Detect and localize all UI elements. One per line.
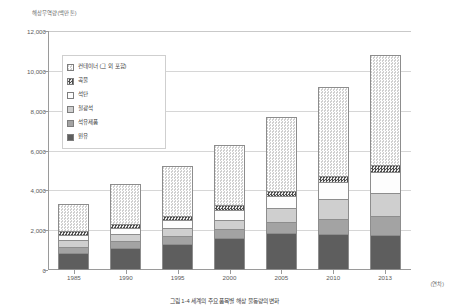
maritime-trade-stacked-bar-chart: 해상무역량(백만톤) 12,00010,0008,0006,0004,0002,… [0, 0, 449, 308]
y-axis-tick-label: 12,000 [2, 28, 46, 35]
bar-segment-crude [162, 244, 193, 270]
bar-segment-coal [266, 196, 297, 208]
legend-item-label: 원유 [78, 134, 88, 140]
bar-segment-iron [370, 193, 401, 217]
bar-segment-cont [318, 87, 349, 177]
bar-segment-crude [110, 248, 141, 270]
y-axis-title: 해상무역량(백만톤) [32, 9, 77, 17]
x-axis-tick-mark [74, 270, 75, 274]
x-axis-tick-mark [281, 270, 282, 274]
bar-segment-cont [110, 184, 141, 223]
bar-segment-coal [214, 210, 245, 220]
bar-segment-iron [110, 234, 141, 241]
legend-item-label: 곡물 [78, 78, 88, 84]
legend-swatch-icon [67, 134, 74, 141]
bar-segment-petro [370, 216, 401, 235]
legend-item-label: 컨테이너 (그 외 포함) [78, 64, 126, 70]
bar-segment-iron [266, 208, 297, 221]
legend-swatch-icon [67, 92, 74, 99]
bar-segment-crude [214, 238, 245, 270]
x-axis-tick-mark [333, 270, 334, 274]
legend-item-crude: 원유 [67, 130, 160, 144]
bar-segment-petro [214, 229, 245, 238]
figure-caption: 그림 1-4 세계의 주요 품목별 해상 물동량의 변화 [0, 296, 449, 305]
bar-column [214, 145, 245, 270]
legend-item-coal: 석탄 [67, 88, 160, 102]
legend-swatch-icon [67, 120, 74, 127]
legend-item-label: 석탄 [78, 92, 88, 98]
bar-column [58, 204, 89, 270]
legend-item-iron: 철광석 [67, 102, 160, 116]
y-axis-tick-label: 0 [2, 267, 46, 274]
bar-column [110, 184, 141, 270]
bar-segment-cont [58, 204, 89, 231]
bar-column [370, 55, 401, 270]
x-axis-tick-label: 2013 [355, 274, 415, 281]
y-axis-tick-label: 2,000 [2, 227, 46, 234]
bar-segment-coal [370, 172, 401, 193]
bar-segment-coal [162, 220, 193, 228]
bar-segment-coal [318, 182, 349, 199]
bar-column [162, 166, 193, 270]
bar-segment-cont [214, 145, 245, 206]
bar-segment-iron [162, 228, 193, 236]
bar-segment-crude [370, 235, 401, 270]
bar-column [266, 117, 297, 270]
chart-legend: 컨테이너 (그 외 포함)곡물석탄철광석석유제품원유 [62, 55, 166, 149]
legend-item-cont: 컨테이너 (그 외 포함) [67, 60, 160, 74]
legend-swatch-icon [67, 78, 74, 85]
bar-segment-iron [318, 199, 349, 219]
legend-item-label: 석유제품 [78, 120, 98, 126]
y-axis-tick-label: 8,000 [2, 108, 46, 115]
bar-segment-crude [318, 234, 349, 270]
bar-segment-petro [162, 236, 193, 244]
y-axis-tick-label: 10,000 [2, 68, 46, 75]
legend-item-petro: 석유제품 [67, 116, 160, 130]
y-axis-tick-label: 6,000 [2, 148, 46, 155]
legend-item-grain: 곡물 [67, 74, 160, 88]
x-axis-tick-mark [385, 270, 386, 274]
bar-segment-petro [318, 219, 349, 235]
y-axis-tick-label: 4,000 [2, 187, 46, 194]
bar-segment-iron [214, 220, 245, 229]
bar-segment-cont [162, 166, 193, 216]
x-axis-tick-mark [230, 270, 231, 274]
x-axis-tick-mark [178, 270, 179, 274]
bar-column [318, 87, 349, 270]
legend-item-label: 철광석 [78, 106, 93, 112]
x-axis-tick-mark [126, 270, 127, 274]
legend-swatch-icon [67, 106, 74, 113]
y-axis-tick-mark [44, 270, 48, 271]
bar-segment-cont [370, 55, 401, 165]
x-axis-title: (연차) [430, 280, 444, 288]
bar-segment-crude [58, 253, 89, 270]
bar-segment-cont [266, 117, 297, 191]
legend-swatch-icon [67, 64, 74, 71]
bar-segment-petro [266, 222, 297, 233]
bar-segment-crude [266, 233, 297, 270]
bar-segment-coal [110, 228, 141, 235]
